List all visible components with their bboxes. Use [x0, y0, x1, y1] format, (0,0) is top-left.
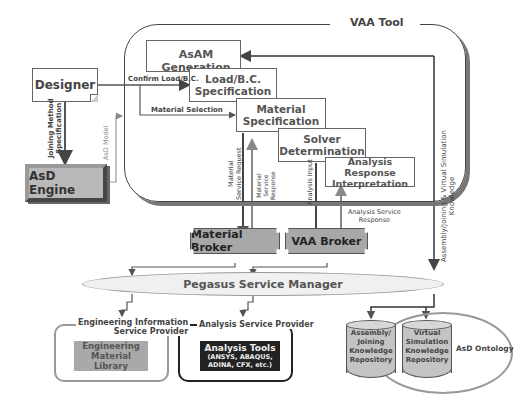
engineering-provider-title-line1: Engineering Information: [78, 318, 188, 327]
repo2-line2: Simulation: [402, 338, 452, 347]
designer-label: Designer: [35, 78, 96, 92]
analysis-tools-box: Analysis Tools (ANSYS, ABAQUS, ADINA, CF…: [200, 341, 280, 371]
analysis-tools-line2: (ANSYS, ABAQUS,: [207, 353, 272, 361]
material-response-line2: Service: [262, 171, 269, 200]
analysis-response-label-line2: Interpretation: [332, 178, 408, 189]
repo1-line4: Repository: [346, 356, 396, 365]
asd-model-label: AsD Model: [102, 126, 110, 160]
joining-method-label: Joining Method Specification: [47, 99, 63, 159]
vaa-tool-label: VAA Tool: [350, 16, 404, 29]
analysis-response-step: Analysis Response Interpretation: [325, 157, 415, 187]
engineering-provider-title-line2: Service Provider: [78, 327, 188, 336]
material-broker-label: Material Broker: [191, 228, 279, 254]
library-line2: Material Library: [74, 351, 148, 371]
analysis-provider-title: Analysis Service Provider: [197, 320, 316, 329]
material-spec-label-line1: Material: [256, 103, 305, 115]
material-selection-label: Material Selection: [151, 106, 223, 114]
pegasus-service-manager: Pegasus Service Manager: [82, 272, 444, 296]
document-fold-icon: [90, 94, 98, 102]
analysis-tools-line3: ADINA, CFX, etc.): [208, 361, 272, 369]
knowledge-line2: Knowledge: [448, 130, 456, 262]
repo1-line1: Assembly/: [346, 329, 396, 338]
load-bc-label-line2: Specification: [195, 85, 271, 97]
virtual-repository-text: Virtual Simulation Knowledge Repository: [402, 329, 452, 365]
analysis-response-line1: Analysis Service: [348, 208, 401, 216]
analysis-response-label-line1: Analysis Response: [326, 156, 414, 178]
engineering-provider-title: Engineering Information Service Provider: [76, 318, 190, 336]
load-bc-label-line1: Load/B.C.: [205, 73, 261, 85]
material-request-label: Material Service Request: [227, 148, 243, 201]
designer-node: Designer: [32, 68, 98, 102]
engineering-material-library: Engineering Material Library: [74, 341, 148, 371]
repo2-line3: Knowledge: [402, 347, 452, 356]
analysis-input-label: Analysis Input: [306, 159, 314, 205]
library-line1: Engineering: [74, 341, 148, 351]
joining-method-line2: Specification: [55, 99, 63, 159]
virtual-simulation-repository: Virtual Simulation Knowledge Repository: [402, 320, 452, 378]
analysis-response-line2: Response: [348, 216, 401, 224]
joining-method-line1: Joining Method: [47, 99, 55, 159]
pegasus-label: Pegasus Service Manager: [183, 278, 343, 291]
repo2-line4: Repository: [402, 356, 452, 365]
asd-engine-node: AsD Engine: [25, 164, 107, 202]
assembly-repository-text: Assembly/ Joining Knowledge Repository: [346, 329, 396, 365]
load-bc-step: Load/B.C. Specification: [189, 68, 277, 102]
repo1-line3: Knowledge: [346, 347, 396, 356]
confirm-load-label: Confirm Load/B.C.: [128, 75, 199, 83]
cylinder-bottom: [346, 368, 396, 378]
vaa-broker-label: VAA Broker: [292, 235, 362, 248]
asd-ontology-label: AsD Ontology: [456, 344, 514, 353]
material-spec-step: Material Specification: [236, 98, 326, 132]
solver-label-line1: Solver: [303, 133, 341, 145]
analysis-tools-line1: Analysis Tools: [204, 343, 275, 353]
material-request-line2: Service Request: [235, 148, 243, 201]
vaa-broker-node: VAA Broker: [285, 228, 368, 254]
repo2-line1: Virtual: [402, 329, 452, 338]
material-spec-label-line2: Specification: [243, 115, 319, 127]
cylinder-bottom: [402, 368, 452, 378]
asd-engine-label: AsD Engine: [29, 169, 103, 197]
analysis-service-response-label: Analysis Service Response: [348, 208, 401, 224]
material-request-line1: Material: [227, 148, 235, 201]
material-broker-node: Material Broker: [190, 228, 280, 254]
knowledge-label: Assembly/Joining & Virtual Simulation Kn…: [440, 130, 456, 262]
material-response-label: Material Service Response: [255, 171, 276, 200]
assembly-joining-repository: Assembly/ Joining Knowledge Repository: [346, 320, 396, 378]
material-response-line1: Material: [255, 171, 262, 200]
repo1-line2: Joining: [346, 338, 396, 347]
material-response-line3: Response: [269, 171, 276, 200]
knowledge-line1: Assembly/Joining & Virtual Simulation: [440, 130, 448, 262]
